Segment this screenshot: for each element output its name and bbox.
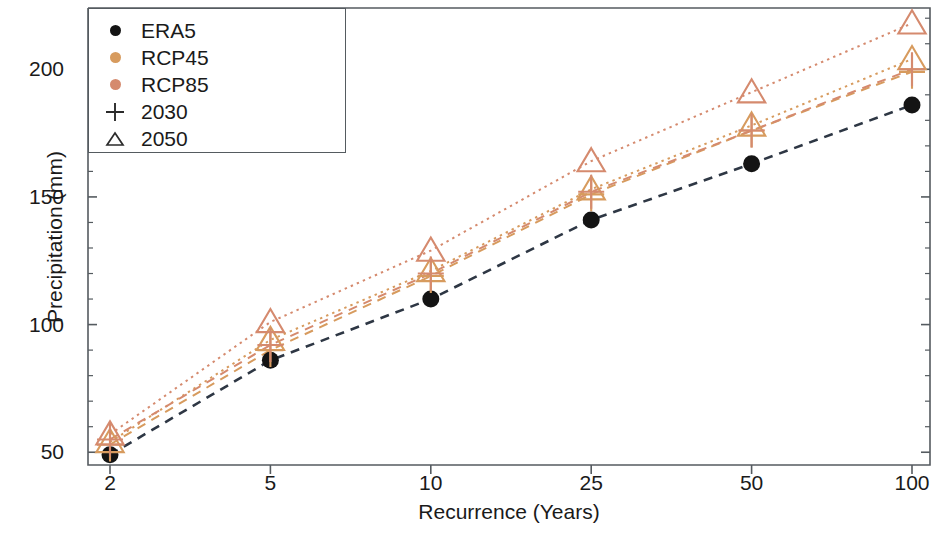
legend-item-2050: 2050 xyxy=(89,125,345,152)
legend-label: 2030 xyxy=(141,101,188,122)
legend-item-2030: 2030 xyxy=(89,98,345,125)
x-tick-label-100: 100 xyxy=(894,471,929,495)
x-axis-title-text: Recurrence (Years) xyxy=(338,500,599,523)
legend-item-rcp45: RCP45 xyxy=(89,44,345,71)
legend-label: RCP45 xyxy=(141,47,209,68)
marker-rcp85-2050-25 xyxy=(578,148,605,171)
marker-rcp85-2030-100 xyxy=(899,52,925,86)
y-tick-label-200: 200 xyxy=(4,57,64,81)
marker-era5-50 xyxy=(743,155,760,172)
x-tick-label-10: 10 xyxy=(419,471,442,495)
legend: ERA5RCP45RCP8520302050 xyxy=(88,8,346,153)
marker-rcp85-2050-50 xyxy=(738,79,765,102)
circle-icon xyxy=(89,17,141,44)
marker-rcp85-2030-25 xyxy=(578,175,604,209)
legend-label: 2050 xyxy=(141,128,188,149)
x-tick-label-5: 5 xyxy=(265,471,277,495)
x-tick-label-2: 2 xyxy=(104,471,116,495)
x-tick-label-25: 25 xyxy=(580,471,603,495)
marker-era5-100 xyxy=(904,97,921,114)
marker-era5-25 xyxy=(583,211,600,228)
x-tick-label-50: 50 xyxy=(740,471,763,495)
marker-era5-10 xyxy=(422,291,439,308)
circle-icon xyxy=(89,44,141,71)
marker-rcp85-2030-50 xyxy=(739,114,765,148)
legend-item-rcp85: RCP85 xyxy=(89,71,345,98)
y-tick-label-50: 50 xyxy=(4,440,64,464)
legend-label: ERA5 xyxy=(141,20,196,41)
series-line-era5 xyxy=(110,105,912,455)
marker-rcp85-2050-100 xyxy=(898,10,925,33)
triangle-icon xyxy=(89,125,141,152)
plus-icon xyxy=(89,98,141,125)
legend-label: RCP85 xyxy=(141,74,209,95)
legend-item-era5: ERA5 xyxy=(89,17,345,44)
circle-icon xyxy=(89,71,141,98)
x-axis-title: Recurrence (Years) xyxy=(0,500,938,524)
y-axis-title: Precipitation (mm) xyxy=(43,87,67,387)
precipitation-recurrence-chart: 50100150200 25102550100 Precipitation (m… xyxy=(0,0,938,534)
